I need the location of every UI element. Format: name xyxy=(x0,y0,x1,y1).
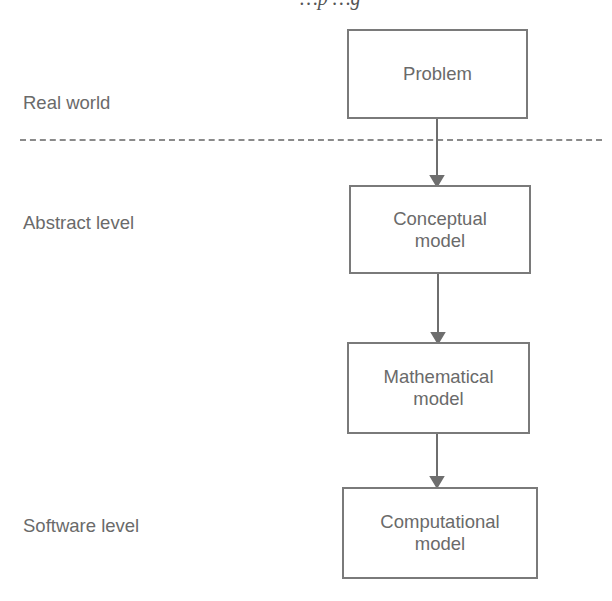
box-conceptual-model: Conceptual model xyxy=(349,185,531,274)
box-mathematical-model: Mathematical model xyxy=(347,342,530,434)
box-label-line2: model xyxy=(415,533,465,555)
box-label-line1: Mathematical xyxy=(383,366,493,388)
box-problem: Problem xyxy=(347,29,528,119)
box-label-line1: Computational xyxy=(380,511,499,533)
box-label: Problem xyxy=(403,63,472,85)
box-label-line2: model xyxy=(413,388,463,410)
box-computational-model: Computational model xyxy=(342,487,538,579)
arrowhead-icon xyxy=(431,477,443,487)
box-label-line1: Conceptual xyxy=(393,208,487,230)
box-label-line2: model xyxy=(415,230,465,252)
